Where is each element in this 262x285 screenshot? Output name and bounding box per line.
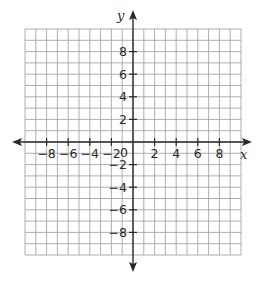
coordinate-plane: −8−6−4−224688642−2−4−6−8 x y 0 [0, 0, 262, 285]
x-tick-label: −6 [59, 146, 77, 161]
y-tick-label: 6 [119, 67, 127, 82]
y-tick-label: 2 [119, 112, 127, 127]
y-tick-label: 4 [119, 89, 127, 104]
x-axis-label: x [240, 147, 248, 162]
x-tick-label: −4 [81, 146, 99, 161]
y-tick-label: −8 [109, 225, 127, 240]
y-tick-label: −6 [109, 202, 127, 217]
x-tick-label: −8 [37, 146, 55, 161]
x-tick-label: 6 [194, 146, 202, 161]
x-tick-label: 2 [151, 146, 159, 161]
x-tick-label: 4 [172, 146, 180, 161]
y-tick-label: 8 [119, 44, 127, 59]
y-axis-label: y [116, 8, 125, 23]
x-tick-label: 8 [215, 146, 223, 161]
origin-label: 0 [120, 145, 128, 160]
y-tick-label: −4 [109, 180, 127, 195]
